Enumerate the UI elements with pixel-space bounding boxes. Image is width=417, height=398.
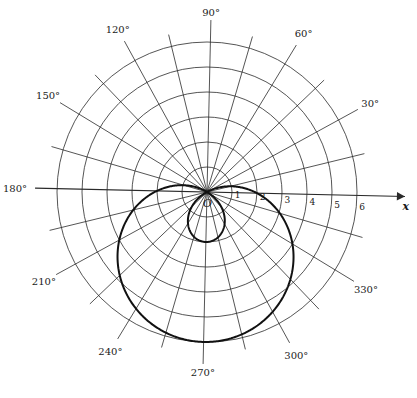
radial-tick-1: 1	[235, 190, 241, 200]
radial-line-135	[95, 75, 207, 192]
angle-label-300: 300°	[284, 350, 308, 361]
radial-line-255	[162, 192, 207, 347]
radial-tick-3: 3	[285, 195, 291, 205]
radial-line-30	[207, 109, 358, 192]
angle-label-120: 120°	[106, 24, 130, 35]
radial-line-75	[207, 37, 252, 192]
x-axis-label: x	[401, 200, 409, 213]
angle-label-240: 240°	[98, 346, 122, 357]
angle-label-90: 90°	[202, 7, 220, 18]
angle-label-210: 210°	[32, 276, 56, 287]
radial-line-210	[56, 192, 207, 275]
angle-labels: 30°60°90°120°150°180°210°240°270°300°330…	[3, 7, 379, 378]
angle-label-270: 270°	[191, 367, 215, 378]
radial-line-300	[207, 192, 290, 343]
radial-line-225	[90, 192, 207, 304]
radial-line-45	[207, 80, 324, 192]
x-axis-line	[35, 188, 405, 196]
radial-tick-6: 6	[359, 202, 365, 212]
radial-tick-4: 4	[309, 197, 315, 207]
radial-line-270	[203, 192, 207, 364]
radial-line-105	[169, 35, 207, 192]
polar-chart: 123456 30°60°90°120°150°180°210°240°270°…	[0, 0, 417, 398]
origin-label: O	[203, 197, 212, 210]
x-axis	[35, 188, 405, 201]
radial-line-195	[50, 192, 207, 230]
radial-line-285	[207, 192, 245, 349]
angle-label-60: 60°	[295, 28, 313, 39]
angle-label-330: 330°	[354, 284, 378, 295]
radial-line-90	[207, 20, 211, 192]
radial-line-315	[207, 192, 319, 309]
radial-tick-5: 5	[334, 200, 340, 210]
polar-plot: 123456	[35, 20, 405, 364]
angle-label-180: 180°	[3, 183, 27, 194]
angle-label-150: 150°	[36, 90, 60, 101]
angle-label-30: 30°	[361, 98, 379, 109]
radial-tick-2: 2	[260, 192, 266, 202]
radial-line-120	[124, 41, 207, 192]
